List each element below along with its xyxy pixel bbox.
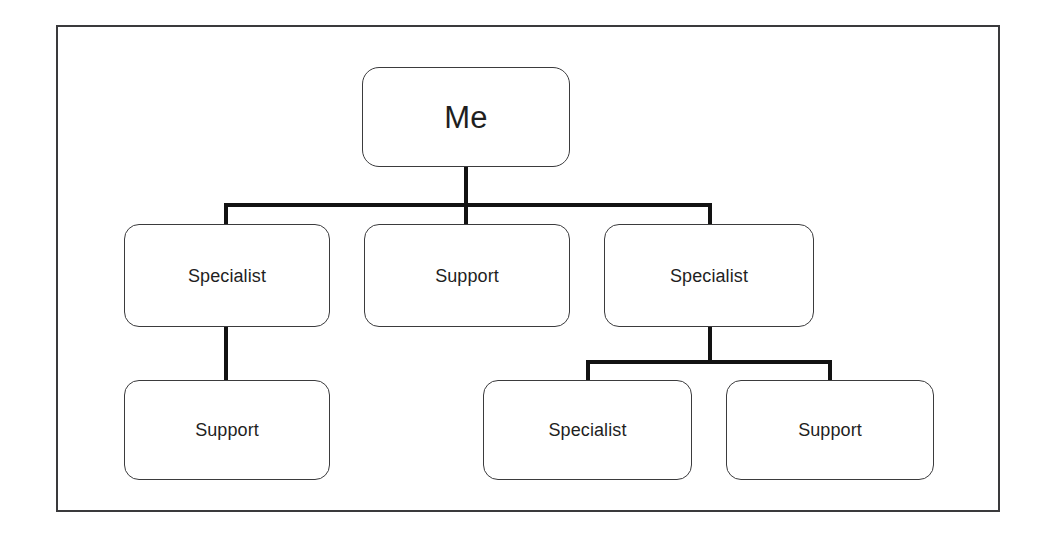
- node-specialist-bottom[interactable]: Specialist: [483, 380, 692, 480]
- connector-level3-bus: [586, 360, 832, 364]
- connector-drop-sup-mid: [464, 203, 468, 226]
- connector-root-stem: [464, 165, 468, 207]
- connector-drop-sup-bot: [828, 360, 832, 382]
- node-specialist-right[interactable]: Specialist: [604, 224, 814, 327]
- connector-drop-spec-right: [708, 203, 712, 226]
- diagram-canvas: Me Specialist Support Specialist Support…: [0, 0, 1051, 543]
- node-label: Specialist: [670, 267, 748, 285]
- node-label: Specialist: [188, 267, 266, 285]
- connector-drop-spec-bot: [586, 360, 590, 382]
- node-label: Support: [435, 267, 499, 285]
- node-specialist-left[interactable]: Specialist: [124, 224, 330, 327]
- node-label: Me: [444, 102, 487, 133]
- connector-level2-bus: [224, 203, 712, 207]
- connector-spec-left-to-sup-left: [224, 325, 228, 381]
- node-root-me[interactable]: Me: [362, 67, 570, 167]
- connector-spec-right-stem: [708, 325, 712, 363]
- node-support-middle[interactable]: Support: [364, 224, 570, 327]
- node-label: Specialist: [548, 421, 626, 439]
- node-label: Support: [798, 421, 862, 439]
- node-label: Support: [195, 421, 259, 439]
- node-support-bottom-left[interactable]: Support: [124, 380, 330, 480]
- connector-drop-spec-left: [224, 203, 228, 226]
- diagram-frame: Me Specialist Support Specialist Support…: [56, 25, 1000, 512]
- node-support-bottom-right[interactable]: Support: [726, 380, 934, 480]
